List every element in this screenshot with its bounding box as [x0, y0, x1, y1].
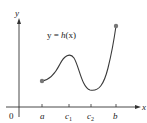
x-axis-label: x: [141, 102, 146, 112]
endpoint-a: [40, 79, 44, 83]
tick-label-c2: c2: [87, 111, 94, 122]
tick-label-b: b: [113, 111, 118, 121]
tick-label-c1: c1: [65, 111, 72, 122]
endpoint-b: [114, 24, 118, 28]
x-axis-arrow-icon: [135, 105, 141, 109]
origin-label: 0: [9, 111, 14, 121]
graph-canvas: y x 0 y = h(x) a c1 c2 b: [0, 0, 147, 123]
function-label: y = h(x): [47, 30, 76, 40]
y-axis-arrow-icon: [17, 18, 21, 24]
tick-label-a: a: [40, 111, 45, 121]
y-axis-label: y: [14, 8, 19, 18]
